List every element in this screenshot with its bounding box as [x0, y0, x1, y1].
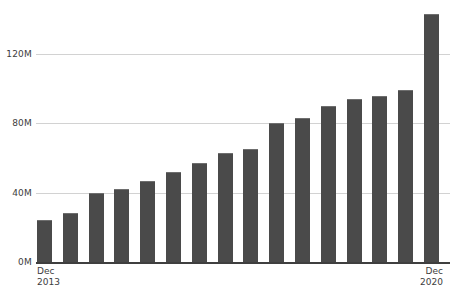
bars-series [0, 0, 460, 296]
x-axis-label: Dec2020 [383, 266, 443, 288]
bar [114, 189, 129, 262]
bar [321, 106, 336, 262]
x-axis-label-month: Dec [383, 266, 443, 277]
bar [269, 123, 284, 262]
bar [37, 220, 52, 262]
bar [166, 172, 181, 262]
x-axis-label-month: Dec [37, 266, 60, 277]
bar [63, 213, 78, 262]
bar [192, 163, 207, 262]
x-axis-label: Dec2013 [37, 266, 60, 288]
bar [295, 118, 310, 262]
bar [372, 96, 387, 262]
x-axis-label-year: 2013 [37, 277, 60, 288]
bar [140, 181, 155, 262]
bar [218, 153, 233, 262]
x-axis-label-year: 2020 [383, 277, 443, 288]
bar [398, 90, 413, 262]
bar [347, 99, 362, 262]
bar [89, 193, 104, 262]
bar [424, 14, 439, 262]
bar [243, 149, 258, 262]
bar-chart: 0M40M80M120M Dec2013Dec2020 [0, 0, 460, 296]
